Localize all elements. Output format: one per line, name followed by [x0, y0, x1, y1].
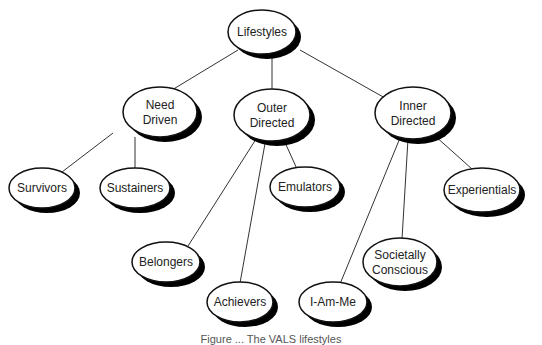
- node-belongers: Belongers: [132, 242, 205, 287]
- figure-caption: Figure ... The VALS lifestyles: [0, 333, 542, 345]
- node-label: Experientials: [448, 183, 517, 197]
- node-survivors: Survivors: [9, 168, 80, 213]
- node-label: Directed: [250, 116, 295, 130]
- edge-lifestyles-to-inner-directed: [300, 50, 385, 98]
- node-inner-directed: InnerDirected: [375, 87, 456, 144]
- node-label: Directed: [391, 114, 436, 128]
- node-sustainers: Sustainers: [100, 168, 175, 213]
- node-label: Belongers: [139, 255, 193, 269]
- node-societally-conscious: SocietallyConscious: [363, 238, 442, 291]
- node-label: Achievers: [214, 295, 267, 309]
- node-lifestyles: Lifestyles: [228, 10, 301, 59]
- node-label: Need: [146, 98, 175, 112]
- node-outer-directed: OuterDirected: [234, 89, 315, 146]
- node-experientials: Experientials: [444, 168, 525, 217]
- node-label: Lifestyles: [237, 25, 287, 39]
- node-label: Societally: [374, 248, 425, 262]
- node-label: Conscious: [372, 263, 428, 277]
- node-label: Survivors: [17, 181, 67, 195]
- diagram-nodes: LifestylesNeedDrivenOuterDirectedInnerDi…: [9, 10, 525, 327]
- edge-inner-directed-to-experientials: [434, 135, 472, 169]
- node-label: Inner: [399, 99, 426, 113]
- node-emulators: Emulators: [270, 167, 345, 212]
- node-i-am-me: I-Am-Me: [299, 282, 372, 327]
- node-label: Outer: [257, 101, 287, 115]
- edge-outer-directed-to-belongers: [188, 136, 258, 246]
- edge-need-driven-to-survivors: [62, 133, 113, 172]
- edge-outer-directed-to-achievers: [240, 138, 266, 283]
- node-label: I-Am-Me: [310, 295, 356, 309]
- node-need-driven: NeedDriven: [123, 87, 202, 142]
- node-label: Emulators: [278, 180, 332, 194]
- node-label: Driven: [143, 113, 178, 127]
- edge-inner-directed-to-societally-conscious: [402, 139, 408, 239]
- node-achievers: Achievers: [207, 282, 278, 327]
- node-label: Sustainers: [107, 181, 164, 195]
